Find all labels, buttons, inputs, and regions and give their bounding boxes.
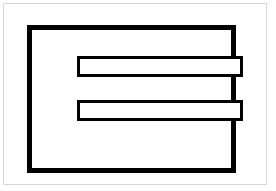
large-rectangle — [27, 25, 236, 173]
lower-bar — [77, 100, 243, 121]
upper-bar — [77, 56, 243, 77]
